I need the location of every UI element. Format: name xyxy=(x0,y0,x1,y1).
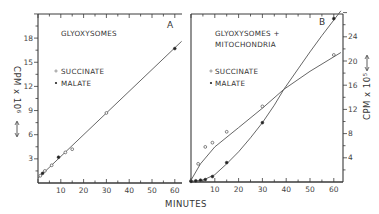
x-tick-label: 20 xyxy=(234,185,244,194)
data-point-malate xyxy=(199,179,202,182)
x-tick-label: 60 xyxy=(329,185,339,194)
data-point-succinate xyxy=(204,146,207,149)
y-tick-label: 4 xyxy=(348,153,353,162)
x-tick-label: 50 xyxy=(305,185,315,194)
panel-title-line-2: MITOCHONDRIA xyxy=(215,40,276,49)
y-tick-label: 12 xyxy=(348,105,358,114)
data-point-succinate xyxy=(105,112,108,115)
data-point-succinate xyxy=(197,162,200,165)
x-tick-label: 40 xyxy=(281,185,291,194)
y-tick-label: 15 xyxy=(23,58,33,67)
panel-title-line-1: GLYOXYSOMES + xyxy=(215,29,280,38)
y-tick-label: 18 xyxy=(23,34,33,43)
x-tick-label: 10 xyxy=(56,186,66,195)
data-point-succinate xyxy=(39,174,42,177)
data-point-succinate xyxy=(261,105,264,108)
y-tick-label: 16 xyxy=(348,81,358,90)
legend-malate: MALATE xyxy=(61,79,92,88)
panel-title: GLYOXYSOMES xyxy=(61,29,117,38)
data-point-succinate xyxy=(71,148,74,151)
data-point-malate xyxy=(204,178,207,181)
data-point-malate xyxy=(332,17,335,20)
legend-malate: MALATE xyxy=(215,79,246,88)
panel-b: 1020304050604812162024GLYOXYSOMES +MITOC… xyxy=(190,11,358,194)
data-point-malate xyxy=(173,47,176,50)
data-point-malate xyxy=(57,156,60,159)
panel-letter-a: A xyxy=(167,20,174,30)
x-tick-label: 30 xyxy=(102,186,112,195)
malate-legend-marker xyxy=(210,82,212,84)
data-point-succinate xyxy=(43,170,46,173)
x-tick-label: 10 xyxy=(210,185,220,194)
legend-succinate: SUCCINATE xyxy=(215,67,259,76)
y-tick-label: 3 xyxy=(28,154,33,163)
y-tick-label: 12 xyxy=(23,82,33,91)
y-tick-label: 20 xyxy=(348,57,358,66)
y-tick-label: 24 xyxy=(348,32,358,41)
y-tick-label: 6 xyxy=(28,130,33,139)
figure: 102030405060369121518GLYOXYSOMESASUCCINA… xyxy=(0,0,379,214)
left-y-axis-title: CPM x 10⁶ xyxy=(12,66,22,114)
legend-succinate: SUCCINATE xyxy=(61,67,105,76)
right-y-axis-title: CPM x 10⁵ xyxy=(362,72,372,120)
succinate-legend-marker xyxy=(55,70,57,72)
data-point-malate xyxy=(194,179,197,182)
data-point-succinate xyxy=(50,164,53,167)
data-point-succinate xyxy=(64,151,67,154)
y-tick-label: 8 xyxy=(348,129,353,138)
x-tick-label: 40 xyxy=(124,186,134,195)
x-axis-title: MINUTES xyxy=(165,199,207,209)
data-point-succinate xyxy=(225,130,228,133)
succinate-legend-marker xyxy=(210,70,212,72)
y-tick-label: 9 xyxy=(28,106,33,115)
fit-curve-succinate xyxy=(191,53,341,181)
data-point-malate xyxy=(41,172,44,175)
x-tick-label: 60 xyxy=(170,186,180,195)
data-point-malate xyxy=(211,175,214,178)
x-tick-label: 50 xyxy=(147,186,157,195)
data-point-succinate xyxy=(211,141,214,144)
data-point-succinate xyxy=(332,54,335,57)
data-point-malate xyxy=(225,161,228,164)
malate-legend-marker xyxy=(55,82,57,84)
panel-letter-b: B xyxy=(319,17,325,27)
data-point-malate xyxy=(190,180,193,183)
data-point-malate xyxy=(261,121,264,124)
x-tick-label: 30 xyxy=(258,185,268,194)
panel-a: 102030405060369121518GLYOXYSOMESASUCCINA… xyxy=(23,14,182,195)
x-tick-label: 20 xyxy=(79,186,89,195)
